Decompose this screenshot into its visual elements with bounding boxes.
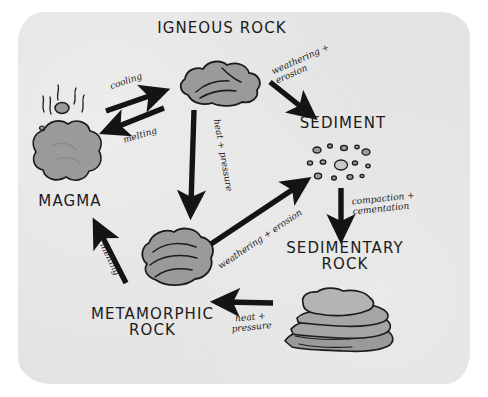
node-label-igneous-rock: IGNEOUS ROCK [157,20,287,36]
node-label-sediment: SEDIMENT [293,115,393,131]
magma-blob [33,85,101,180]
rock-cycle-diagram: IGNEOUS ROCK MAGMA SEDIMENT SEDIMENTARY … [0,0,488,397]
arrow-magma-to-igneous [106,94,155,111]
node-label-sedimentary-rock: SEDIMENTARY ROCK [285,240,405,272]
sediment-grains [307,144,370,180]
igneous-rock-blob [181,62,260,106]
arrow-igneous-to-metamorphic [191,110,194,204]
metamorphic-rock-blob [142,229,213,286]
node-label-metamorphic-rock: METAMORPHIC ROCK [85,306,220,338]
arrow-sedimentary-to-metamorphic [226,302,273,303]
node-label-magma: MAGMA [15,193,125,209]
arrow-igneous-to-sediment [270,82,305,110]
sedimentary-rock-layers [285,288,393,351]
